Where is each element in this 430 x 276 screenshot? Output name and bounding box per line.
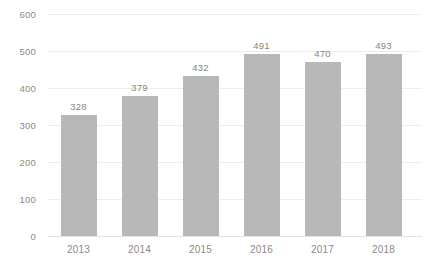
bar-slot-2015: 432 xyxy=(170,14,231,236)
bar-chart: 600 500 400 300 200 100 0 328 379 432 49… xyxy=(0,0,430,276)
bar-value-2016: 491 xyxy=(253,40,269,51)
y-axis-tick-300: 300 xyxy=(0,120,36,131)
y-axis-tick-0: 0 xyxy=(0,231,36,242)
x-axis-tick-2018: 2018 xyxy=(353,244,414,255)
bar-value-2017: 470 xyxy=(314,48,330,59)
bar-value-2018: 493 xyxy=(375,40,391,51)
bar-value-2015: 432 xyxy=(192,62,208,73)
y-axis-tick-600: 600 xyxy=(0,9,36,20)
bar-slot-2013: 328 xyxy=(48,14,109,236)
y-axis-tick-400: 400 xyxy=(0,83,36,94)
bar-slot-2017: 470 xyxy=(292,14,353,236)
bar-value-2013: 328 xyxy=(70,101,86,112)
y-axis-tick-500: 500 xyxy=(0,46,36,57)
bar-slot-2016: 491 xyxy=(231,14,292,236)
x-axis-tick-2015: 2015 xyxy=(170,244,231,255)
x-axis-tick-2017: 2017 xyxy=(292,244,353,255)
bar-2017[interactable] xyxy=(305,62,341,236)
x-axis-tick-2013: 2013 xyxy=(48,244,109,255)
y-axis-tick-200: 200 xyxy=(0,157,36,168)
bar-value-2014: 379 xyxy=(131,82,147,93)
bar-series: 328 379 432 491 470 493 xyxy=(48,14,422,236)
bar-2016[interactable] xyxy=(244,54,280,236)
bar-2014[interactable] xyxy=(122,96,158,236)
bar-2018[interactable] xyxy=(366,54,402,236)
bar-slot-2018: 493 xyxy=(353,14,414,236)
bar-slot-2014: 379 xyxy=(109,14,170,236)
axis-baseline xyxy=(48,236,422,237)
x-axis-tick-2016: 2016 xyxy=(231,244,292,255)
bar-2015[interactable] xyxy=(183,76,219,236)
x-axis-tick-2014: 2014 xyxy=(109,244,170,255)
y-axis-tick-100: 100 xyxy=(0,194,36,205)
bar-2013[interactable] xyxy=(61,115,97,236)
